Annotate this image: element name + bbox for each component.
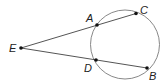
label-b: B [149, 70, 156, 82]
label-a: A [85, 12, 93, 24]
secant-ec [21, 14, 136, 49]
secant-diagram: E A C D B [0, 0, 168, 83]
label-d: D [84, 62, 92, 74]
circle [91, 10, 160, 79]
point-c [134, 12, 138, 16]
point-d [94, 58, 98, 62]
point-a [95, 23, 99, 27]
label-e: E [9, 42, 17, 54]
point-e [19, 46, 23, 50]
label-c: C [140, 4, 148, 16]
